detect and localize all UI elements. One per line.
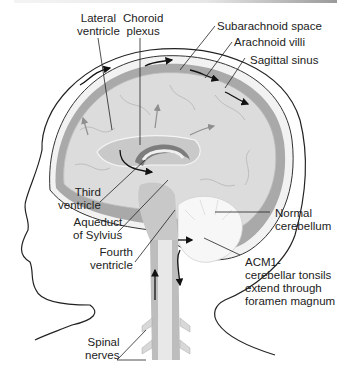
label-choroid-plexus: Choroid plexus <box>123 12 163 38</box>
label-third-ventricle: Third ventricle <box>58 186 101 212</box>
label-lateral-ventricle: Lateral ventricle <box>77 12 120 38</box>
label-acm1: ACM1- cerebellar tonsils extend through … <box>245 256 335 308</box>
label-arachnoid-villi: Arachnoid villi <box>234 36 305 49</box>
label-normal-cerebellum: Normal cerebellum <box>275 207 331 233</box>
label-sagittal-sinus: Sagittal sinus <box>250 54 318 67</box>
label-fourth-ventricle: Fourth ventricle <box>90 246 133 272</box>
label-aqueduct-of-sylvius: Aqueduct of Sylvius <box>73 216 122 242</box>
label-spinal-nerves: Spinal nerves <box>85 336 120 362</box>
label-subarachnoid-space: Subarachnoid space <box>217 20 322 33</box>
